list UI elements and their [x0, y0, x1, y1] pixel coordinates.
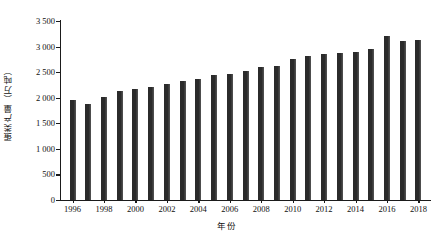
bar [337, 53, 343, 200]
plot-area [60, 21, 431, 200]
bar [274, 66, 280, 200]
y-axis-tick-mark [56, 47, 60, 48]
y-axis-tick-labels: 05001 0001 5002 0002 5003 0003 500 [16, 15, 58, 205]
bar [353, 52, 359, 200]
bar [132, 89, 138, 200]
bar [101, 97, 107, 200]
x-axis-tick-label: 2010 [284, 205, 301, 214]
y-axis-tick-label: 2 000 [36, 93, 55, 102]
bar [148, 87, 154, 200]
x-axis-tick-label: 2004 [190, 205, 207, 214]
y-axis-tick-mark [56, 72, 60, 73]
x-axis-tick-labels: 1996199820002002200420062008201020122014… [40, 205, 439, 219]
bar [117, 91, 123, 200]
x-axis-title-text: 年份 [203, 221, 236, 231]
bar [180, 81, 186, 200]
x-axis-title: 年份 [0, 219, 439, 231]
bar [70, 100, 76, 200]
bar-chart: 蛋类产量（万吨） 05001 0001 5002 0002 5003 0003 … [0, 0, 439, 240]
x-axis-tick-label: 1998 [96, 205, 113, 214]
y-axis-tick-label: 3 500 [36, 17, 55, 26]
y-axis-tick-label: 2 500 [36, 68, 55, 77]
x-axis-tick-label: 2014 [347, 205, 364, 214]
bar [211, 75, 217, 200]
bar [305, 56, 311, 200]
x-axis-tick-mark [135, 200, 136, 203]
bar [321, 54, 327, 200]
bar [400, 41, 406, 200]
x-axis-tick-label: 2006 [221, 205, 238, 214]
bar [164, 84, 170, 200]
y-axis-tick-mark [56, 123, 60, 124]
bar [258, 67, 264, 200]
bar [85, 104, 91, 200]
y-axis-tick-mark [56, 174, 60, 175]
x-axis-tick-label: 2000 [127, 205, 144, 214]
x-axis-tick-mark [167, 200, 168, 203]
x-axis-tick-mark [293, 200, 294, 203]
x-axis-tick-mark [324, 200, 325, 203]
bar [227, 74, 233, 200]
x-axis-tick-mark [261, 200, 262, 203]
bar [195, 79, 201, 200]
y-axis-tick-label: 500 [42, 170, 55, 179]
x-axis-tick-mark [418, 200, 419, 203]
x-axis-tick-label: 2008 [253, 205, 270, 214]
x-axis-tick-label: 2002 [158, 205, 175, 214]
x-axis-tick-label: 2016 [378, 205, 395, 214]
x-axis-tick-mark [104, 200, 105, 203]
bar [290, 59, 296, 200]
x-axis-tick-label: 2018 [410, 205, 427, 214]
bar [368, 49, 374, 200]
x-axis-tick-label: 1996 [64, 205, 81, 214]
y-axis-tick-label: 3 000 [36, 42, 55, 51]
x-axis-tick-mark [198, 200, 199, 203]
bar [384, 36, 390, 200]
y-axis-tick-mark [56, 98, 60, 99]
x-axis-tick-mark [230, 200, 231, 203]
y-axis-tick-label: 1 000 [36, 145, 55, 154]
y-axis-tick-mark [56, 21, 60, 22]
bars-layer [60, 21, 431, 200]
x-axis-tick-mark [73, 200, 74, 203]
x-axis-tick-mark [387, 200, 388, 203]
x-axis-tick-label: 2012 [316, 205, 333, 214]
y-axis-tick-label: 0 [51, 196, 55, 205]
y-axis-title-text: 蛋类产量（万吨） [5, 65, 14, 141]
y-axis-tick-mark [56, 149, 60, 150]
bar [415, 40, 421, 200]
bar [243, 71, 249, 200]
x-axis-tick-mark [356, 200, 357, 203]
y-axis-tick-label: 1 500 [36, 119, 55, 128]
